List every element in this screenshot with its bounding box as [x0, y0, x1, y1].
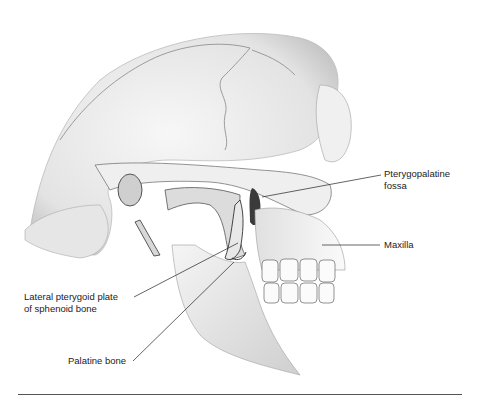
label-line: Lateral pterygoid plate: [24, 291, 118, 303]
label-line: Palatine bone: [68, 355, 126, 367]
label-palatine-bone: Palatine bone: [68, 355, 126, 367]
label-line: Pterygopalatine: [384, 168, 450, 180]
label-lateral-pterygoid-plate: Lateral pterygoid plate of sphenoid bone: [24, 291, 118, 315]
label-line: Maxilla: [384, 239, 414, 251]
styloid-process: [135, 220, 160, 256]
bottom-divider: [18, 394, 462, 395]
label-line: of sphenoid bone: [24, 303, 118, 315]
label-pterygopalatine-fossa: Pterygopalatine fossa: [384, 168, 450, 192]
label-line: fossa: [384, 180, 450, 192]
anatomy-figure: Pterygopalatine fossa Maxilla Lateral pt…: [0, 0, 477, 406]
skull-illustration: [0, 0, 477, 406]
label-maxilla: Maxilla: [384, 239, 414, 251]
